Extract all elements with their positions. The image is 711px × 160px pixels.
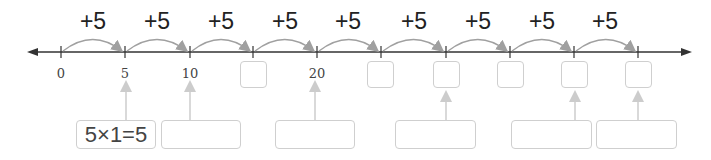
jump-label: +5 [389, 8, 439, 35]
right-arrow-icon [681, 48, 692, 56]
tick-answer-box[interactable] [625, 61, 652, 88]
equation-box: 5×1=5 [76, 120, 156, 149]
jump-label: +5 [196, 8, 246, 35]
jump-label: +5 [453, 8, 503, 35]
jump-label: +5 [580, 8, 630, 35]
equation-box[interactable] [596, 120, 677, 149]
equation-box[interactable] [511, 120, 592, 149]
jump-label: +5 [132, 8, 182, 35]
equation-box[interactable] [395, 120, 476, 149]
pointer-arrows [126, 86, 638, 120]
jump-label: +5 [260, 8, 310, 35]
jump-label: +5 [517, 8, 567, 35]
tick-label: 10 [175, 66, 205, 81]
tick-answer-box[interactable] [240, 61, 267, 88]
jump-arcs [63, 40, 635, 52]
tick-answer-box[interactable] [497, 61, 524, 88]
jump-label: +5 [323, 8, 373, 35]
tick-label: 5 [110, 66, 140, 81]
tick-answer-box[interactable] [367, 61, 394, 88]
tick-label: 0 [46, 66, 76, 81]
left-arrow-icon [27, 48, 38, 56]
equation-box[interactable] [161, 120, 241, 149]
tick-answer-box[interactable] [433, 61, 460, 88]
tick-answer-box[interactable] [561, 61, 588, 88]
equation-box[interactable] [275, 120, 355, 149]
jump-label: +5 [68, 8, 118, 35]
tick-label: 20 [302, 66, 332, 81]
